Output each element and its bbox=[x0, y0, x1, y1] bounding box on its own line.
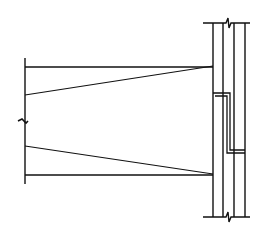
connection-plate bbox=[213, 93, 245, 153]
beam bbox=[18, 58, 213, 184]
column-bottom-break-icon bbox=[203, 212, 250, 222]
beam-taper-bottom bbox=[25, 146, 213, 174]
column-lines bbox=[213, 23, 245, 217]
beam-column-connection-diagram bbox=[0, 0, 270, 232]
break-mark-icon bbox=[18, 119, 28, 123]
column-top-break-icon bbox=[203, 18, 250, 28]
plate-outer-edge bbox=[213, 93, 245, 150]
beam-taper-top bbox=[25, 66, 213, 95]
drawing-canvas bbox=[0, 0, 270, 232]
